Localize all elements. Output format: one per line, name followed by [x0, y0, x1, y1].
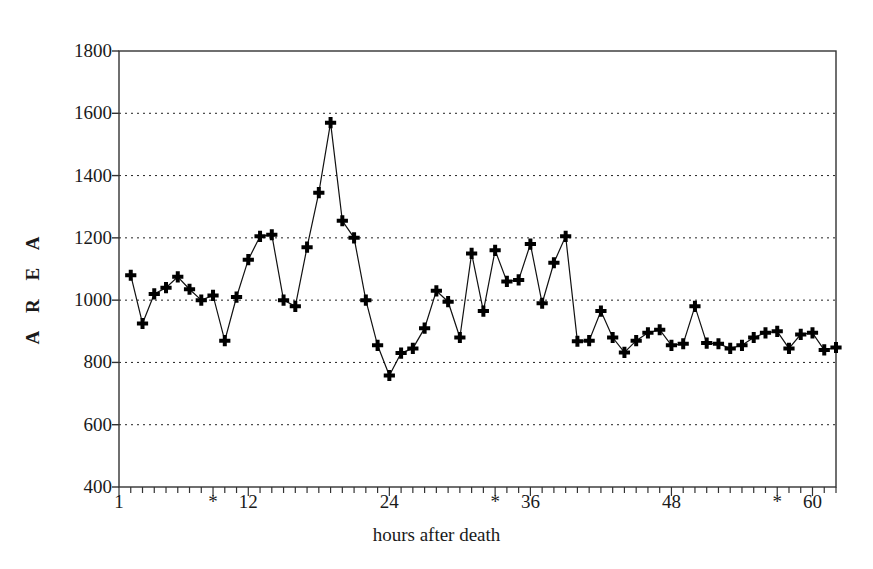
- data-point: [466, 248, 477, 259]
- data-point: [654, 324, 665, 335]
- data-point: [713, 338, 724, 349]
- data-point: [266, 229, 277, 240]
- plot-area: [0, 0, 873, 569]
- data-point: [819, 344, 830, 355]
- data-point: [243, 254, 254, 265]
- data-point: [478, 305, 489, 316]
- data-point: [666, 340, 677, 351]
- data-point: [678, 338, 689, 349]
- data-point: [384, 370, 395, 381]
- x-tick-label-asterisk: *: [490, 492, 500, 511]
- data-point: [149, 288, 160, 299]
- data-line: [131, 123, 836, 376]
- data-point: [807, 327, 818, 338]
- y-tick-label: 1200: [50, 228, 112, 247]
- data-point: [372, 340, 383, 351]
- data-point: [772, 326, 783, 337]
- data-point: [607, 332, 618, 343]
- x-tick-label-asterisk: *: [208, 492, 218, 511]
- x-tick-label: 12: [239, 492, 258, 511]
- x-axis-title: hours after death: [0, 524, 873, 546]
- y-axis-ticks: [112, 51, 119, 487]
- x-tick-label: 60: [803, 492, 822, 511]
- area-vs-hours-line-chart: A R E A 40060080010001200140016001800 1*…: [0, 0, 873, 569]
- data-point: [548, 257, 559, 268]
- y-axis-title-text: A R E A: [21, 230, 43, 345]
- data-point: [301, 242, 312, 253]
- data-point: [584, 335, 595, 346]
- x-axis-tick-labels: 1*1224*3648*60: [0, 492, 873, 518]
- data-point: [454, 332, 465, 343]
- data-point: [736, 340, 747, 351]
- y-tick-label: 1600: [50, 103, 112, 122]
- data-point: [207, 290, 218, 301]
- data-point: [830, 342, 841, 353]
- axis-frame: [119, 51, 836, 487]
- x-tick-label: 24: [380, 492, 399, 511]
- x-tick-label: 1: [114, 492, 124, 511]
- x-tick-label: 36: [521, 492, 540, 511]
- data-point: [254, 231, 265, 242]
- data-point: [231, 291, 242, 302]
- data-point: [396, 347, 407, 358]
- y-tick-label: 1800: [50, 41, 112, 60]
- data-point: [325, 117, 336, 128]
- data-point: [501, 276, 512, 287]
- data-point: [689, 301, 700, 312]
- x-tick-label-asterisk: *: [772, 492, 782, 511]
- data-point: [560, 231, 571, 242]
- data-point: [760, 327, 771, 338]
- gridlines: [119, 113, 836, 424]
- data-point: [748, 332, 759, 343]
- data-point: [701, 338, 712, 349]
- data-point: [595, 305, 606, 316]
- data-point: [572, 336, 583, 347]
- data-point: [313, 187, 324, 198]
- data-point: [490, 245, 501, 256]
- y-tick-label: 600: [50, 415, 112, 434]
- y-tick-label: 1400: [50, 166, 112, 185]
- data-point: [725, 343, 736, 354]
- data-markers: [125, 117, 841, 381]
- data-point: [407, 343, 418, 354]
- y-tick-label: 1000: [50, 290, 112, 309]
- data-point: [337, 215, 348, 226]
- data-point: [419, 323, 430, 334]
- data-point: [125, 270, 136, 281]
- data-point: [360, 295, 371, 306]
- x-tick-label: 48: [662, 492, 681, 511]
- data-point: [137, 318, 148, 329]
- data-point: [219, 335, 230, 346]
- data-point: [537, 298, 548, 309]
- y-tick-label: 800: [50, 352, 112, 371]
- data-point: [513, 274, 524, 285]
- y-axis-title: A R E A: [12, 212, 52, 362]
- data-point: [290, 301, 301, 312]
- data-point: [348, 232, 359, 243]
- data-point: [525, 238, 536, 249]
- data-point: [642, 327, 653, 338]
- x-axis-title-text: hours after death: [373, 524, 501, 545]
- data-point: [278, 295, 289, 306]
- plot-frame: [119, 51, 836, 487]
